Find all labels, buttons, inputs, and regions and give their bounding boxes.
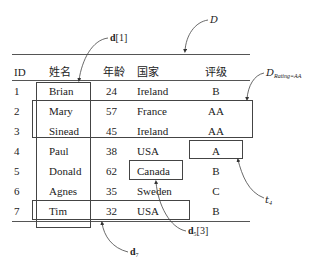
label-tuple: t4: [265, 194, 272, 209]
subset-subscript: Rating=AA: [274, 73, 301, 79]
label-column: d[1]: [110, 32, 127, 44]
label-subset: DRating=AA: [266, 67, 301, 82]
label-row: d7: [130, 246, 139, 261]
subset-symbol: D: [266, 67, 274, 78]
annotation-arrows: [0, 0, 314, 277]
label-cell: d5[3]: [188, 225, 208, 240]
column-index: [1]: [116, 32, 128, 43]
tuple-subscript: 4: [269, 200, 272, 206]
figure-caption-faded: [80, 263, 260, 271]
cell-index: [3]: [197, 225, 209, 236]
dataset-symbol: D: [210, 14, 218, 25]
label-dataset: D: [210, 14, 218, 26]
row-subscript: 7: [136, 252, 139, 258]
